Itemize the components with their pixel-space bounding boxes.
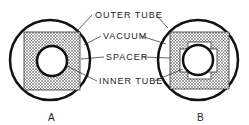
caption-b: B <box>197 112 204 123</box>
figure-a <box>10 20 90 100</box>
label-inner-tube: INNER TUBE <box>99 76 163 86</box>
tube-cross-section-diagram: OUTER TUBE VACUUM SPACER INNER TUBE A B <box>0 0 249 125</box>
label-outer-tube: OUTER TUBE <box>95 10 163 20</box>
label-vacuum: VACUUM <box>103 31 147 41</box>
figure-b <box>158 20 238 100</box>
inner-tube-a <box>37 46 67 76</box>
label-spacer: SPACER <box>106 52 148 62</box>
inner-tube-b <box>183 45 213 75</box>
caption-a: A <box>48 112 55 123</box>
